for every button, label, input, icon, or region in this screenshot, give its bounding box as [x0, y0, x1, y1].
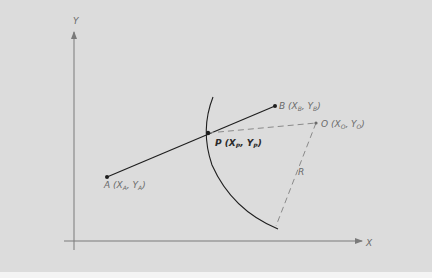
- point-p: [206, 131, 210, 135]
- geometry-diagram: Y X A (XA, YA) B (XB, YB) O (XO, YO) P (…: [0, 0, 432, 278]
- label-r: R: [298, 167, 304, 177]
- point-o: [314, 121, 317, 124]
- label-p: P (XP, YP): [215, 138, 262, 149]
- x-axis-label: X: [365, 238, 373, 248]
- label-o: O (XO, YO): [321, 119, 365, 130]
- dashed-radius: [276, 123, 316, 226]
- point-b: [273, 104, 277, 108]
- circle-arc: [206, 97, 278, 229]
- point-a: [105, 175, 109, 179]
- y-axis-label: Y: [73, 16, 80, 26]
- label-a: A (XA, YA): [103, 180, 146, 191]
- label-b: B (XB, YB): [279, 101, 321, 112]
